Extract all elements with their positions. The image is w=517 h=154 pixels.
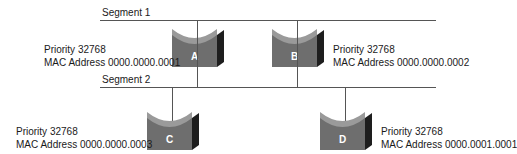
switch-d-info: Priority 32768 MAC Address 0000.0001.000… <box>381 125 517 151</box>
switch-b-priority: Priority 32768 <box>333 43 469 56</box>
switch-d-mac: MAC Address 0000.0001.0001 <box>381 138 517 151</box>
switch-b[interactable]: B <box>272 29 324 67</box>
switch-c-info: Priority 32768 MAC Address 0000.0000.000… <box>16 125 152 151</box>
switch-b-label: B <box>272 51 317 63</box>
link-a-through <box>197 20 198 87</box>
switch-c-mac: MAC Address 0000.0000.0003 <box>16 138 152 151</box>
switch-a-mac: MAC Address 0000.0000.0001 <box>44 56 180 69</box>
switch-d-label: D <box>320 134 365 146</box>
switch-c[interactable]: C <box>147 112 199 150</box>
segment-1-label: Segment 1 <box>102 7 150 19</box>
switch-b-info: Priority 32768 MAC Address 0000.0000.000… <box>333 43 469 69</box>
link-b-through <box>297 20 298 87</box>
switch-c-priority: Priority 32768 <box>16 125 152 138</box>
segment-2-label: Segment 2 <box>102 74 150 86</box>
switch-a-priority: Priority 32768 <box>44 43 180 56</box>
segment-1-line <box>100 20 436 21</box>
switch-b-mac: MAC Address 0000.0000.0002 <box>333 56 469 69</box>
switch-d[interactable]: D <box>320 112 372 150</box>
switch-a-info: Priority 32768 MAC Address 0000.0000.000… <box>44 43 180 69</box>
switch-c-label: C <box>147 134 192 146</box>
switch-d-priority: Priority 32768 <box>381 125 517 138</box>
segment-2-line <box>100 87 436 88</box>
